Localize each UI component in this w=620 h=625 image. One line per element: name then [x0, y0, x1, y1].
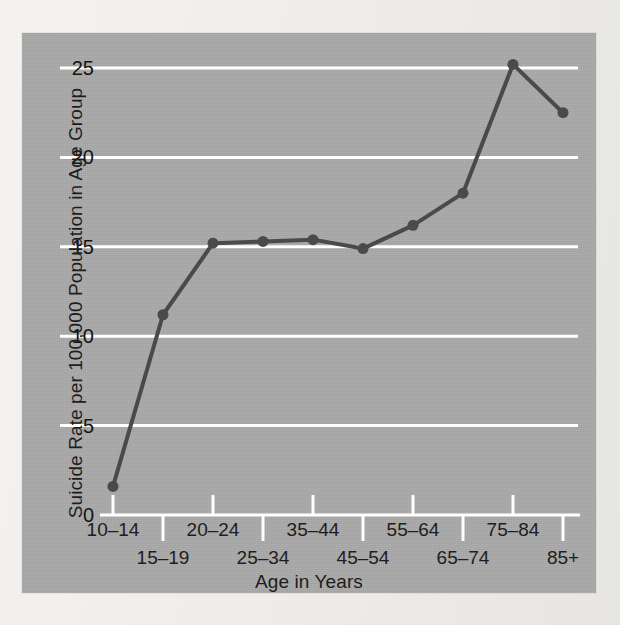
- data-point-85+: [558, 107, 569, 118]
- data-point-25–34: [258, 236, 269, 247]
- data-point-75–84: [508, 59, 519, 70]
- x-tick-label-25–34: 25–34: [237, 547, 290, 569]
- gridlines-group: [60, 68, 578, 426]
- x-tick-label-20–24: 20–24: [187, 519, 240, 541]
- suicide-rate-line-series: [113, 64, 563, 486]
- data-point-35–44: [308, 234, 319, 245]
- y-axis-title: Suicide Rate per 100,000 Population in A…: [65, 43, 87, 563]
- data-point-20–24: [208, 238, 219, 249]
- x-tick-label-55–64: 55–64: [387, 519, 440, 541]
- data-point-10–14: [108, 481, 119, 492]
- line-chart-plot: [22, 33, 596, 593]
- x-tick-label-10–14: 10–14: [87, 519, 140, 541]
- data-point-15–19: [158, 309, 169, 320]
- x-tick-label-45–54: 45–54: [337, 547, 390, 569]
- x-tick-label-75–84: 75–84: [487, 519, 540, 541]
- x-axis-title: Age in Years: [22, 571, 596, 593]
- data-point-65–74: [458, 188, 469, 199]
- data-point-55–64: [408, 220, 419, 231]
- x-tick-label-15–19: 15–19: [137, 547, 190, 569]
- x-tick-label-85+: 85+: [547, 547, 579, 569]
- x-tick-label-65–74: 65–74: [437, 547, 490, 569]
- series-line: [113, 64, 563, 486]
- chart-panel: 2520151050 10–1415–1920–2425–3435–4445–5…: [22, 33, 596, 593]
- data-point-45–54: [358, 243, 369, 254]
- x-tick-label-35–44: 35–44: [287, 519, 340, 541]
